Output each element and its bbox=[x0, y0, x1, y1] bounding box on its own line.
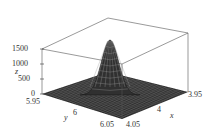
surface-plot bbox=[0, 0, 214, 131]
z-tick-500: 500 bbox=[18, 75, 30, 83]
x-tick-4.05: 4.05 bbox=[126, 121, 140, 129]
x-tick-3.95: 3.95 bbox=[188, 91, 202, 99]
x-axis-label: x bbox=[170, 112, 174, 120]
y-axis-label: y bbox=[64, 114, 68, 122]
x-tick-4: 4 bbox=[157, 106, 161, 114]
y-tick-5.95: 5.95 bbox=[26, 98, 40, 106]
y-tick-6.05: 6.05 bbox=[100, 121, 114, 129]
z-tick-1500: 1500 bbox=[12, 45, 28, 53]
z-axis-label: z bbox=[15, 68, 18, 76]
y-tick-6: 6 bbox=[73, 109, 77, 117]
